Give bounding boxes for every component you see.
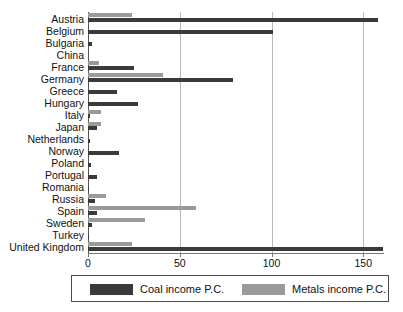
bar-group xyxy=(88,181,383,193)
y-tick-label: Turkey xyxy=(0,229,84,241)
legend: Coal income P.C.Metals income P.C. xyxy=(71,275,389,302)
legend-item: Coal income P.C. xyxy=(90,281,224,297)
bar-coal xyxy=(88,114,90,118)
bar-group xyxy=(88,96,383,108)
bar-coal xyxy=(88,151,119,155)
bar-group xyxy=(88,72,383,84)
bar-metals xyxy=(88,194,106,198)
y-tick-label: United Kingdom xyxy=(0,241,84,253)
bar-metals xyxy=(88,110,101,114)
bar-group xyxy=(88,48,383,60)
bar-group xyxy=(88,36,383,48)
y-tick-label: Russia xyxy=(0,193,84,205)
bar-metals xyxy=(88,218,145,222)
bar-coal xyxy=(88,102,138,106)
y-tick-label: Sweden xyxy=(0,217,84,229)
bar-coal xyxy=(88,199,95,203)
legend-swatch xyxy=(90,284,133,295)
y-tick-label: Bulgaria xyxy=(0,37,84,49)
x-axis-tick-labels: 050100150 xyxy=(88,256,388,272)
legend-label: Coal income P.C. xyxy=(140,283,224,296)
y-tick-label: Spain xyxy=(0,205,84,217)
y-tick-label: Greece xyxy=(0,85,84,97)
bar-group xyxy=(88,84,383,96)
legend-item: Metals income P.C. xyxy=(242,281,386,297)
bar-metals xyxy=(88,206,196,210)
bar-coal xyxy=(88,30,273,34)
y-tick-label: Romania xyxy=(0,181,84,193)
y-tick-label: Netherlands xyxy=(0,133,84,145)
bar-group xyxy=(88,241,383,253)
y-tick-label: Poland xyxy=(0,157,84,169)
bar-coal xyxy=(88,126,97,130)
x-tick-label: 50 xyxy=(174,256,186,270)
bar-metals xyxy=(88,122,101,126)
bar-coal xyxy=(88,247,383,251)
legend-swatch xyxy=(242,284,285,295)
bar-group xyxy=(88,133,383,145)
bar-coal xyxy=(88,187,89,191)
bar-coal xyxy=(88,66,134,70)
bar-group xyxy=(88,12,383,24)
bar-group xyxy=(88,193,383,205)
x-tick-label: 100 xyxy=(263,256,281,270)
bar-group xyxy=(88,60,383,72)
bar-metals xyxy=(88,73,163,77)
bar-coal xyxy=(88,223,92,227)
bar-group xyxy=(88,217,383,229)
x-tick-label: 150 xyxy=(354,256,372,270)
y-tick-label: China xyxy=(0,49,84,61)
y-tick-label: Japan xyxy=(0,121,84,133)
y-tick-label: France xyxy=(0,61,84,73)
bar-coal xyxy=(88,211,97,215)
x-axis-line xyxy=(88,253,384,254)
bar-coal xyxy=(88,175,97,179)
bar-metals xyxy=(88,61,99,65)
bar-coal xyxy=(88,139,90,143)
bar-coal xyxy=(88,42,92,46)
plot-area xyxy=(88,12,383,253)
bar-chart-figure: AustriaBelgiumBulgariaChinaFranceGermany… xyxy=(0,0,403,312)
x-tick-label: 0 xyxy=(85,256,91,270)
y-tick-label: Italy xyxy=(0,109,84,121)
bar-group xyxy=(88,157,383,169)
bar-group xyxy=(88,24,383,36)
y-tick-label: Germany xyxy=(0,73,84,85)
y-tick-label: Portugal xyxy=(0,169,84,181)
bar-coal xyxy=(88,163,91,167)
y-tick-label: Norway xyxy=(0,145,84,157)
bar-coal xyxy=(88,78,233,82)
bar-group xyxy=(88,205,383,217)
bar-group xyxy=(88,169,383,181)
bar-coal xyxy=(88,90,117,94)
bar-group xyxy=(88,229,383,241)
bar-coal xyxy=(88,235,89,239)
y-tick-label: Hungary xyxy=(0,97,84,109)
bar-metals xyxy=(88,242,132,246)
bar-group xyxy=(88,145,383,157)
y-axis-tick-labels: AustriaBelgiumBulgariaChinaFranceGermany… xyxy=(0,12,84,253)
bar-group xyxy=(88,120,383,132)
bar-group xyxy=(88,108,383,120)
y-tick-label: Belgium xyxy=(0,25,84,37)
legend-label: Metals income P.C. xyxy=(292,283,386,296)
bar-coal xyxy=(88,18,378,22)
bar-metals xyxy=(88,13,132,17)
y-tick-label: Austria xyxy=(0,13,84,25)
